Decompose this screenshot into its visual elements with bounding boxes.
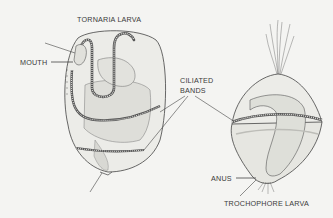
tornaria-larva <box>45 31 166 192</box>
ciliated-bands-label-line2: BANDS <box>180 86 206 95</box>
apical-tuft <box>266 20 294 74</box>
ciliated-bands-label-line1: CILIATED <box>180 76 213 85</box>
anus-label: ANUS <box>211 174 232 183</box>
larvae-diagram: TORNARIA LARVA MOUTH CILIATED BANDS ANUS… <box>0 0 333 218</box>
trochophore-larva <box>231 20 322 196</box>
tornaria-larva-title: TORNARIA LARVA <box>77 15 141 24</box>
trochophore-larva-title: TROCHOPHORE LARVA <box>224 199 309 208</box>
diagram-artwork <box>0 0 333 218</box>
mouth-label: MOUTH <box>20 58 47 67</box>
